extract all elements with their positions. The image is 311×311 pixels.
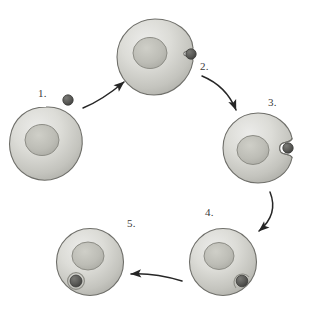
arrow-1-2 bbox=[83, 82, 124, 108]
cell-step-5 bbox=[57, 229, 124, 296]
nucleus bbox=[25, 125, 59, 156]
step-label-2: 2. bbox=[200, 61, 209, 72]
diagram-canvas bbox=[0, 0, 311, 311]
cell-step-2 bbox=[117, 19, 193, 95]
step-label-4: 4. bbox=[205, 207, 214, 218]
cell-step-3 bbox=[223, 113, 292, 183]
engulfed-particle-step-3 bbox=[283, 143, 293, 153]
cell-step-4 bbox=[190, 229, 257, 296]
arrow-4-5 bbox=[131, 274, 182, 281]
vesicle-particle-step-4 bbox=[236, 275, 248, 287]
step-label-3: 3. bbox=[268, 97, 277, 108]
vesicle-particle-step-5 bbox=[70, 275, 82, 287]
nucleus bbox=[204, 243, 234, 270]
arrow-2-3 bbox=[202, 76, 236, 110]
arrow-3-4 bbox=[259, 192, 273, 231]
cell-step-1 bbox=[10, 107, 83, 180]
nucleus bbox=[237, 136, 269, 165]
bound-particle-step-2 bbox=[186, 49, 196, 59]
step-label-1: 1. bbox=[38, 88, 47, 99]
nucleus bbox=[72, 242, 104, 270]
free-particle-step-1 bbox=[63, 95, 73, 105]
endocytosis-diagram: 1. 2. 3. 4. 5. bbox=[0, 0, 311, 311]
step-label-5: 5. bbox=[127, 218, 136, 229]
nucleus bbox=[133, 38, 167, 69]
